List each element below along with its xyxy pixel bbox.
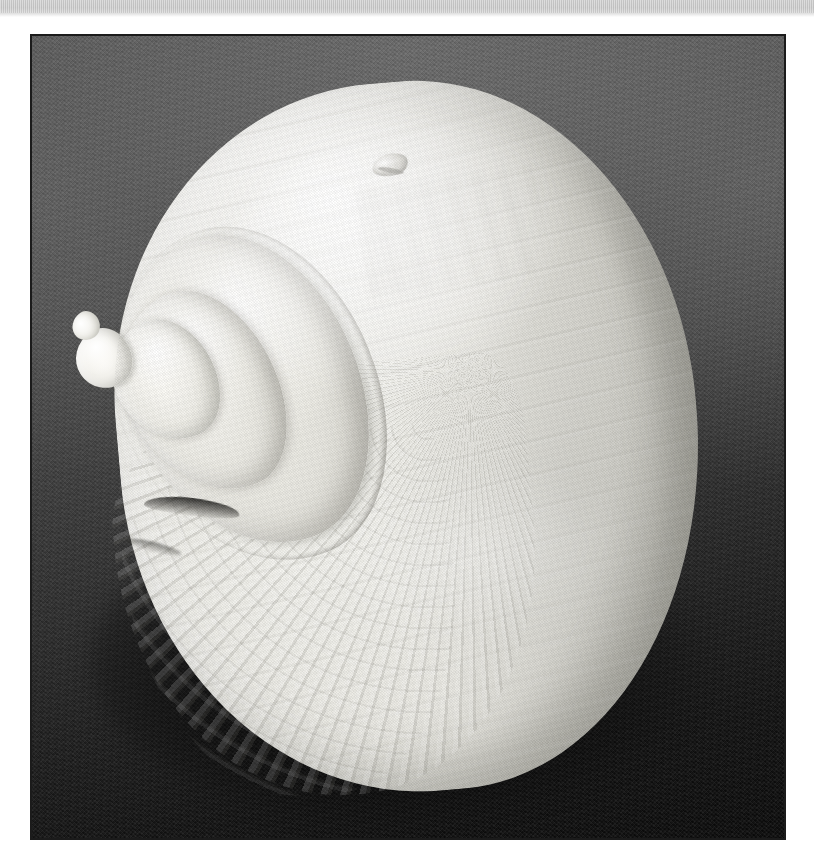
gastropod-shell [32, 36, 784, 838]
scan-edge-band [0, 0, 814, 14]
page-canvas [0, 0, 814, 863]
scan-edge-fade [0, 13, 814, 17]
photograph-frame [30, 34, 786, 840]
caption-area [30, 842, 786, 862]
